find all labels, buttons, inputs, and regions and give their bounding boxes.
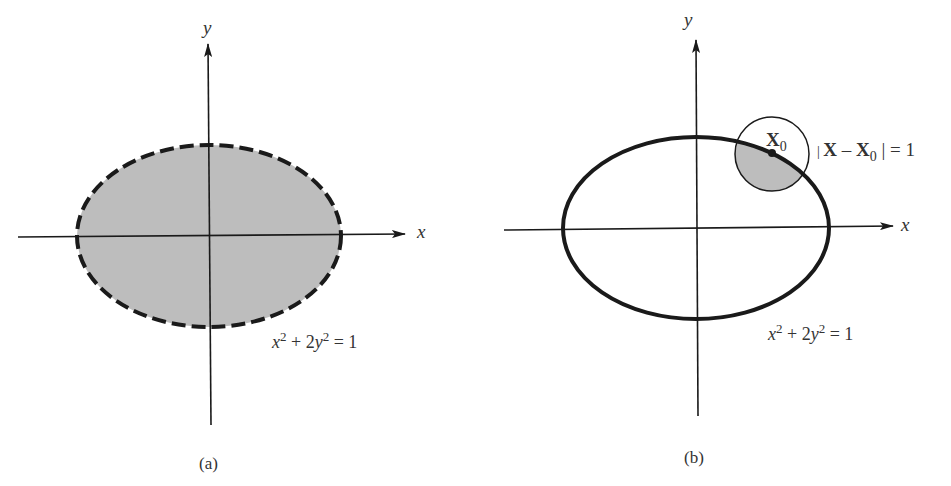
circle-equation-label: | X – X0 | = 1 [817, 139, 915, 164]
figure-canvas: y x x2 + 2y2 = 1 (a) y x X0 | X – X0 | =… [0, 0, 951, 486]
caption-b: (b) [684, 448, 704, 467]
panel-b: y x X0 | X – X0 | = 1 x2 + 2y2 = 1 (b) [504, 9, 915, 467]
equation-a: x2 + 2y2 = 1 [271, 329, 357, 352]
y-axis-b [696, 40, 698, 416]
panel-a: y x x2 + 2y2 = 1 (a) [18, 17, 426, 473]
equation-b: x2 + 2y2 = 1 [767, 321, 853, 344]
x-axis-label-b: x [900, 214, 910, 235]
point-x0 [768, 149, 776, 157]
x-axis-label-a: x [416, 221, 426, 242]
y-axis-label-b: y [682, 9, 693, 30]
caption-a: (a) [199, 454, 218, 473]
y-axis-label-a: y [201, 17, 212, 38]
